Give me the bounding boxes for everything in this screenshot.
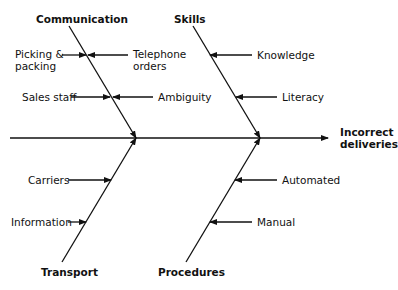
effect-line1: Incorrect xyxy=(340,126,398,138)
fishbone-lines xyxy=(0,0,398,290)
cause-knowledge: Knowledge xyxy=(257,49,315,61)
cause-ambiguity: Ambiguity xyxy=(158,91,212,103)
bone-procedures xyxy=(186,138,260,262)
category-procedures: Procedures xyxy=(158,266,225,278)
cause-carriers: Carriers xyxy=(28,174,69,186)
category-skills: Skills xyxy=(174,13,206,25)
cause-sales-staff: Sales staff xyxy=(22,91,77,103)
bone-communication xyxy=(69,26,136,138)
effect-line2: deliveries xyxy=(340,138,398,150)
cause-automated: Automated xyxy=(282,174,340,186)
bone-skills xyxy=(193,26,260,138)
cause-information: Information xyxy=(11,216,72,228)
cause-literacy: Literacy xyxy=(282,91,324,103)
cause-picking-packing: Picking & packing xyxy=(15,48,64,72)
effect-label: Incorrect deliveries xyxy=(340,126,398,150)
bone-transport xyxy=(62,138,136,262)
category-communication: Communication xyxy=(36,13,128,25)
cause-manual: Manual xyxy=(257,216,295,228)
cause-telephone-orders: Telephone orders xyxy=(133,48,186,72)
category-transport: Transport xyxy=(41,266,98,278)
